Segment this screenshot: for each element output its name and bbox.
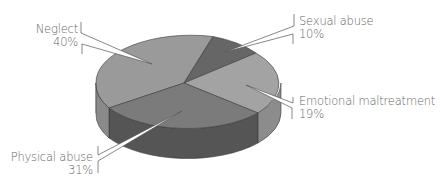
label-physical-abuse: Physical abuse 31% bbox=[10, 151, 93, 177]
label-physical-abuse-pct: 31% bbox=[10, 164, 93, 177]
label-sexual-abuse: Sexual abuse 10% bbox=[299, 15, 373, 41]
label-neglect-pct: 40% bbox=[30, 36, 78, 49]
label-neglect: Neglect 40% bbox=[30, 23, 78, 49]
label-emotional-maltreatment-pct: 19% bbox=[299, 108, 435, 121]
label-sexual-abuse-pct: 10% bbox=[299, 28, 373, 41]
label-emotional-maltreatment: Emotional maltreatment 19% bbox=[299, 95, 435, 121]
